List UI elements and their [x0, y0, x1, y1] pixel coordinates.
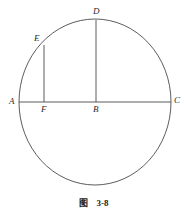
vertex-label-c: C: [174, 96, 180, 105]
vertex-label-f: F: [41, 105, 47, 114]
figure-container: A B C D E F 图3-8: [0, 0, 187, 221]
vertex-label-b: B: [93, 105, 99, 114]
vertex-label-d: D: [93, 7, 100, 16]
caption-label-text: 图: [79, 197, 88, 209]
vertex-label-a: A: [9, 97, 15, 106]
caption-number-text: 3-8: [97, 197, 109, 209]
figure-caption: 图3-8: [0, 197, 187, 209]
vertex-label-e: E: [34, 34, 40, 43]
